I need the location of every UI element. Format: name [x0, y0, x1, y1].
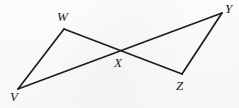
- vertex-label-v: V: [10, 90, 18, 103]
- geometry-canvas: [0, 0, 239, 108]
- geometry-figure: V W X Y Z: [0, 0, 239, 108]
- segment-y-z: [182, 13, 222, 74]
- vertex-label-y: Y: [225, 2, 232, 15]
- vertex-label-x: X: [114, 56, 122, 69]
- segment-w-z: [64, 29, 182, 74]
- vertex-label-w: W: [57, 10, 68, 23]
- vertex-label-z: Z: [176, 79, 183, 92]
- segment-v-y: [18, 13, 222, 89]
